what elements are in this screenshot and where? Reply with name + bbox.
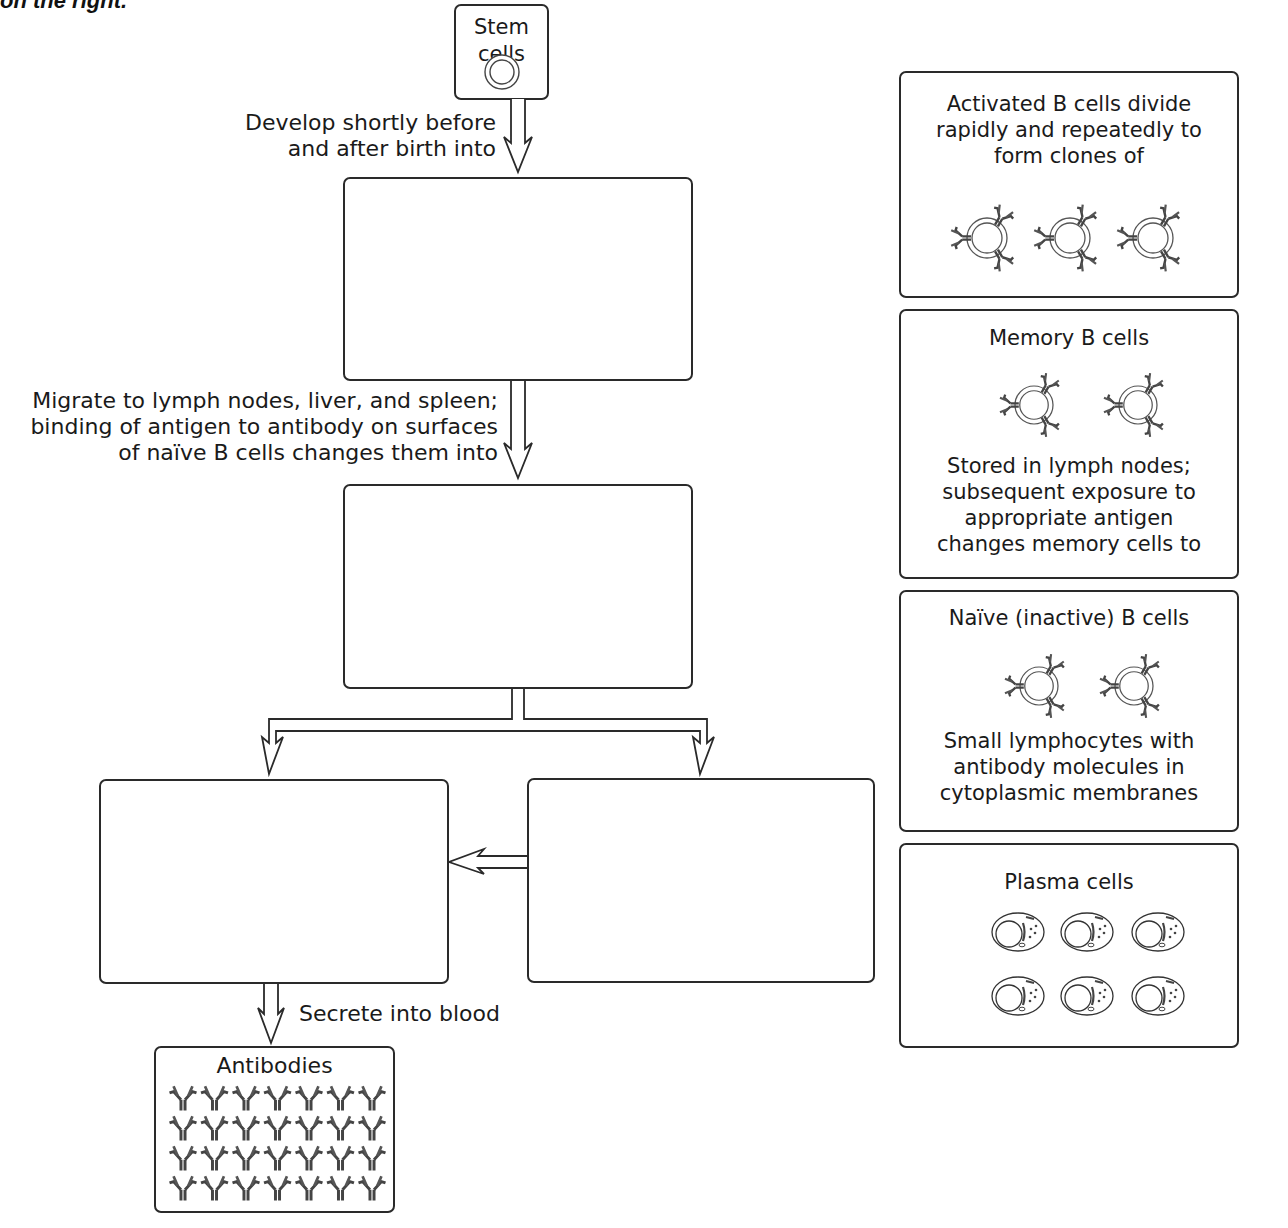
card-memory-b-cells[interactable]: Memory B cells Stored in lymph nodes; su… (899, 309, 1239, 579)
migrate-arrow-label: Migrate to lymph nodes, liver, and splee… (30, 388, 498, 466)
migrate-label-line-1: Migrate to lymph nodes, liver, and splee… (30, 388, 498, 414)
card-memory-caption-line-2: subsequent exposure to (901, 479, 1237, 505)
migrate-label-line-3: of naïve B cells changes them into (30, 440, 498, 466)
secrete-arrow-label: Secrete into blood (299, 1001, 500, 1027)
develop-label-line-1: Develop shortly before (245, 110, 496, 136)
card-naive-caption-line-1: Small lymphocytes with (901, 728, 1237, 754)
card-naive-caption-line-2: antibody molecules in (901, 754, 1237, 780)
card-memory-caption-line-3: appropriate antigen (901, 505, 1237, 531)
blank-answer-box-1[interactable] (343, 177, 693, 381)
antibodies-box: Antibodies (154, 1046, 395, 1213)
plasma-cell-icon (901, 845, 1241, 1050)
card-naive-caption-line-3: cytoplasmic membranes (901, 780, 1237, 806)
card-naive-caption: Small lymphocytes with antibody molecule… (901, 728, 1237, 806)
antibody-grid-icon (156, 1048, 397, 1215)
card-naive-b-cells[interactable]: Naïve (inactive) B cells Small lymphocyt… (899, 590, 1239, 832)
blank-answer-box-3-left[interactable] (99, 779, 449, 984)
card-memory-caption: Stored in lymph nodes; subsequent exposu… (901, 453, 1237, 557)
card-plasma-cells[interactable]: Plasma cells (899, 843, 1239, 1048)
develop-arrow-label: Develop shortly before and after birth i… (245, 110, 496, 162)
develop-label-line-2: and after birth into (245, 136, 496, 162)
b-cell-with-antibodies-icon (901, 73, 1241, 300)
card-activated-b-cells[interactable]: Activated B cells divide rapidly and rep… (899, 71, 1239, 298)
migrate-label-line-2: binding of antigen to antibody on surfac… (30, 414, 498, 440)
blank-answer-box-4-right[interactable] (527, 778, 875, 983)
blank-answer-box-2[interactable] (343, 484, 693, 689)
card-memory-caption-line-1: Stored in lymph nodes; (901, 453, 1237, 479)
card-memory-caption-line-4: changes memory cells to (901, 531, 1237, 557)
